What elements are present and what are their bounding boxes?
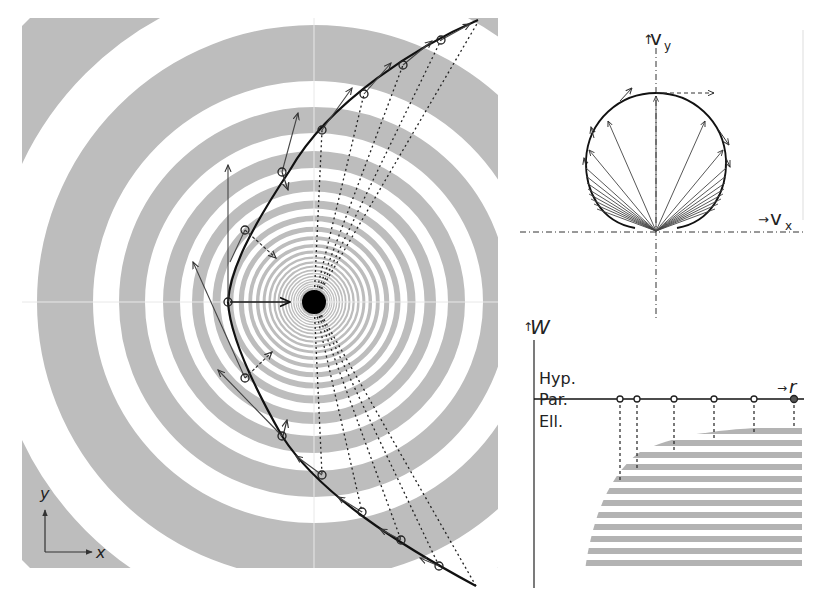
vy-sub: y <box>664 39 671 53</box>
orbit-panel: y x <box>14 2 614 602</box>
sun-icon <box>302 290 326 314</box>
zone-parabolic: Par. <box>539 390 568 409</box>
energy-panel: ↑ W → r Hyp. Par. Ell. <box>523 315 820 588</box>
w-label: W <box>530 315 551 339</box>
ellipse-region <box>560 420 820 580</box>
vx-sub: x <box>785 219 792 233</box>
orbit-physics-figure: y x <box>0 0 826 606</box>
axis-y-label: y <box>39 484 50 503</box>
hodograph-vectors <box>586 96 726 231</box>
zone-elliptic: Ell. <box>539 412 563 431</box>
vx-arrow: → <box>758 212 769 227</box>
r-label: r <box>789 376 798 397</box>
vy-label: v <box>650 26 662 50</box>
hodograph-panel: ↑ v y → v x <box>520 26 804 318</box>
zone-hyperbolic: Hyp. <box>539 369 576 388</box>
vx-label: v <box>770 206 782 230</box>
axis-x-label: x <box>95 543 106 562</box>
r-arrow: → <box>777 381 787 395</box>
hodograph-tangent-arrows <box>584 88 730 167</box>
